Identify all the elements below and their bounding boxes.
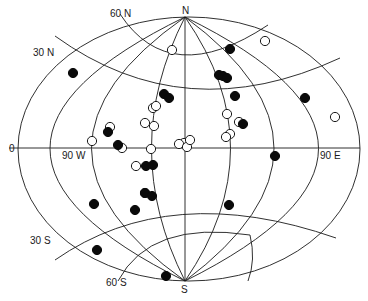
filled-circle-marker xyxy=(270,151,279,160)
lat-30s-label: 30 S xyxy=(30,235,51,246)
open-circle-marker xyxy=(185,135,194,144)
lat-60n-label: 60 N xyxy=(110,8,131,19)
filled-circle-marker xyxy=(224,200,233,209)
open-circle-marker xyxy=(222,109,231,118)
meridian-east-1 xyxy=(185,17,231,281)
parallel-30n xyxy=(55,36,340,89)
open-circle-marker xyxy=(149,121,158,130)
open-circle-marker xyxy=(167,45,176,54)
filled-circle-marker xyxy=(225,44,234,53)
north-pole-label: N xyxy=(182,5,189,16)
filled-circle-marker xyxy=(238,119,247,128)
filled-circle-marker xyxy=(161,271,170,280)
meridian-west-2 xyxy=(92,17,186,281)
lon-90e-label: 90 E xyxy=(320,150,341,161)
open-circle-marker xyxy=(260,36,269,45)
filled-circle-marker xyxy=(68,68,77,77)
lat-30n-label: 30 N xyxy=(33,47,54,58)
filled-circle-marker xyxy=(89,199,98,208)
filled-circle-marker xyxy=(222,73,231,82)
filled-circle-marker xyxy=(164,93,173,102)
filled-circle-marker xyxy=(300,93,309,102)
open-circle-marker xyxy=(330,112,339,121)
south-pole-label: S xyxy=(181,284,188,295)
filled-circle-marker xyxy=(230,91,239,100)
filled-circle-marker xyxy=(141,161,150,170)
open-circle-marker xyxy=(87,136,96,145)
world-map-diagram: N S 60 N 30 N 0 30 S 60 S 90 W 90 E xyxy=(0,0,368,301)
parallel-60n xyxy=(120,14,268,55)
open-circle-marker xyxy=(140,118,149,127)
filled-circle-marker xyxy=(147,191,156,200)
lon-90w-label: 90 W xyxy=(62,150,86,161)
meridian-east-2 xyxy=(185,17,274,281)
open-circle-marker xyxy=(131,161,140,170)
lat-60s-label: 60 S xyxy=(106,277,127,288)
filled-circle-marker xyxy=(130,205,139,214)
equator-label: 0 xyxy=(9,143,15,154)
open-points xyxy=(87,36,339,197)
open-circle-marker xyxy=(151,101,160,110)
filled-circle-marker xyxy=(92,245,101,254)
open-circle-marker xyxy=(146,144,155,153)
filled-circle-marker xyxy=(103,127,112,136)
filled-circle-marker xyxy=(113,140,122,149)
open-circle-marker xyxy=(221,132,230,141)
